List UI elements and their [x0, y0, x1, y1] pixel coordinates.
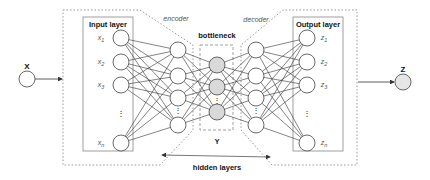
- ellipsis-dots: ⋮: [174, 106, 182, 115]
- bottleneck-label: bottleneck: [198, 31, 236, 40]
- output-z-3-label: z3: [320, 81, 329, 90]
- decoder-hidden-node: [248, 90, 264, 106]
- output-z-node: [395, 74, 411, 90]
- ellipsis-dots: ⋮: [213, 96, 221, 105]
- input-node: [113, 30, 129, 46]
- input-x-1-label: x1: [97, 34, 105, 43]
- latent-y-label: Y: [215, 138, 220, 145]
- output-z-1-label: z1: [320, 34, 328, 43]
- output-node: [299, 54, 315, 70]
- output-node: [299, 135, 315, 151]
- encoder-label: encoder: [163, 15, 189, 22]
- output-node: [299, 30, 315, 46]
- output-z-label: Z: [401, 65, 406, 74]
- encoder-hidden-node: [170, 117, 186, 133]
- input-x-label: X: [24, 62, 30, 71]
- bottleneck-node: [209, 104, 225, 120]
- bottleneck-node: [209, 79, 225, 95]
- input-x-3-label: x3: [97, 81, 106, 90]
- input-node: [113, 135, 129, 151]
- output-z-n-label: zn: [320, 139, 328, 148]
- output-node: [299, 77, 315, 93]
- decoder-hidden-node: [248, 42, 264, 58]
- decoder-label: decoder: [243, 16, 269, 23]
- decoder-hidden-node: [248, 68, 264, 84]
- input-layer-title: Input layer: [89, 20, 127, 29]
- encoder-hidden-node: [170, 68, 186, 84]
- autoencoder-diagram: ⋮⋮⋮⋮⋮ X Z Input layer Output layer encod…: [0, 0, 430, 180]
- connection-edge: [256, 62, 307, 125]
- output-layer-title: Output layer: [296, 20, 340, 29]
- hidden-layers-arrow: [162, 155, 270, 157]
- output-z-2-label: z2: [320, 58, 328, 67]
- ellipsis-dots: ⋮: [303, 109, 311, 118]
- connection-edge: [121, 62, 178, 125]
- connection-edge: [121, 38, 178, 125]
- connection-edge: [121, 50, 178, 62]
- connection-edge: [121, 125, 178, 143]
- decoder-hidden-node: [248, 117, 264, 133]
- input-x-node: [19, 71, 35, 87]
- ellipsis-dots: ⋮: [252, 106, 260, 115]
- encoder-hidden-node: [170, 90, 186, 106]
- input-x-n-label: xn: [97, 139, 105, 148]
- connection-edge: [121, 38, 178, 98]
- input-x-2-label: x2: [97, 58, 105, 67]
- ellipsis-dots: ⋮: [117, 109, 125, 118]
- input-node: [113, 54, 129, 70]
- connection-edge: [121, 76, 178, 143]
- bottleneck-node: [209, 57, 225, 73]
- hidden-layers-label: hidden layers: [193, 163, 241, 172]
- connection-edge: [121, 76, 178, 85]
- input-node: [113, 77, 129, 93]
- encoder-hidden-node: [170, 42, 186, 58]
